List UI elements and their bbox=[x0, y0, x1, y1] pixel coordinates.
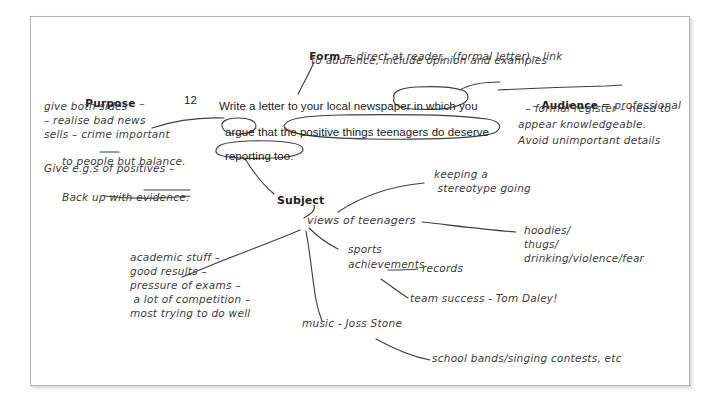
annotation-purpose-line5: Give e.g.s of positives – bbox=[44, 162, 175, 175]
mindmap-node-academic-line1: academic stuff – bbox=[130, 251, 220, 264]
mindmap-node-academic-line5: most trying to do well bbox=[130, 307, 251, 320]
mindmap-node-school-bands: school bands/singing contests, etc bbox=[432, 352, 622, 365]
mindmap-node-views-of-teenagers: views of teenagers bbox=[307, 214, 416, 227]
mindmap-node-sports-line2: achievements bbox=[348, 258, 425, 271]
annotation-subject-label: Subject bbox=[277, 194, 324, 207]
annotation-form-line2: to audience, include opinion and example… bbox=[311, 54, 547, 67]
annotation-purpose-line2: – realise bad news bbox=[44, 114, 146, 127]
annotation-purpose-emphasis-evidence: evidence bbox=[136, 191, 186, 203]
mindmap-node-hoodies-line2: thugs/ bbox=[524, 238, 559, 251]
mindmap-node-stereotype-line2: stereotype going bbox=[434, 182, 531, 195]
question-line-3: reporting too. bbox=[225, 144, 293, 168]
annotation-audience-line3: appear knowledgeable. bbox=[518, 118, 646, 131]
annotation-purpose-line3: sells – crime important bbox=[44, 128, 170, 141]
annotated-exam-page: 12 Write a letter to your local newspape… bbox=[0, 0, 715, 405]
question-number: 12 bbox=[184, 94, 197, 106]
annotation-purpose-line6c: . bbox=[186, 191, 190, 203]
mindmap-node-academic-line4: a lot of competition – bbox=[130, 293, 250, 306]
annotation-audience-line4: Avoid unimportant details bbox=[518, 134, 661, 147]
mindmap-node-hoodies-line1: hoodies/ bbox=[524, 224, 571, 237]
mindmap-node-records: records bbox=[422, 262, 463, 275]
mindmap-node-academic-line2: good results – bbox=[130, 265, 207, 278]
annotation-audience-line2: – formal register – need to bbox=[522, 102, 671, 115]
annotation-purpose-line6a: Back up with bbox=[58, 191, 136, 203]
annotation-purpose-dash: – bbox=[136, 97, 145, 109]
mindmap-node-music: music - Joss Stone bbox=[302, 317, 402, 330]
mindmap-node-hoodies-line3: drinking/violence/fear bbox=[524, 252, 644, 265]
mindmap-node-sports-line1: sports bbox=[348, 243, 382, 256]
question-line-2: argue that the positive things teenagers… bbox=[225, 120, 489, 144]
question-line-1: Write a letter to your local newspaper i… bbox=[219, 94, 478, 118]
mindmap-node-team-success: team success - Tom Daley! bbox=[410, 292, 558, 305]
annotation-purpose-line6: Back up with evidence. bbox=[44, 178, 190, 218]
mindmap-node-stereotype-line1: keeping a bbox=[434, 168, 488, 181]
mindmap-node-academic-line3: pressure of exams – bbox=[130, 279, 241, 292]
annotation-purpose-line1: give both sides bbox=[44, 100, 128, 113]
